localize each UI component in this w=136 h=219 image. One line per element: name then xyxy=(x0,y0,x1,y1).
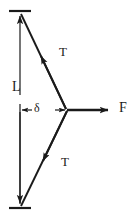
deflection-label: δ xyxy=(34,102,40,114)
tension-upper-label: T xyxy=(59,45,67,58)
tension-lower-label: T xyxy=(61,155,69,168)
length-label: L xyxy=(12,80,21,94)
force-label: F xyxy=(119,101,127,115)
wire-segment-upper xyxy=(21,14,66,109)
diagram-canvas xyxy=(0,0,136,219)
free-body-diagram: L F T T δ xyxy=(0,0,136,219)
